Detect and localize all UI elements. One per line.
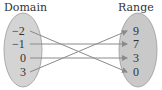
range-value: 0	[133, 65, 139, 79]
domain-value: 3	[20, 65, 26, 79]
range-value: 7	[133, 37, 139, 51]
mapping-diagram: −2 −1 0 3 9 7 3 0	[0, 0, 162, 90]
domain-value: −1	[12, 37, 25, 51]
domain-value: 0	[20, 51, 26, 65]
domain-value: −2	[12, 24, 25, 38]
range-value: 9	[133, 24, 139, 38]
range-value: 3	[133, 51, 139, 65]
